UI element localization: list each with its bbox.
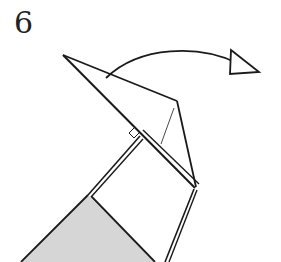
body-edge-right-inner — [169, 190, 197, 262]
fold-arrow-head-icon — [230, 50, 259, 74]
shaded-paper-region — [22, 195, 155, 262]
flap-top-edge — [63, 55, 177, 101]
body-edge-right — [165, 189, 194, 262]
crease-diagonal-inner — [143, 130, 199, 184]
crease-diagonal — [63, 55, 195, 188]
body-edge-left-inner — [92, 139, 143, 196]
origami-fold-diagram — [0, 0, 281, 262]
fold-arrow-curve — [106, 51, 237, 78]
body-edge-left — [88, 136, 140, 195]
flap-inner-line — [161, 108, 174, 144]
